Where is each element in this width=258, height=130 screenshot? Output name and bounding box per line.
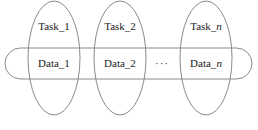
diagram-canvas: Task_1 Data_1 Task_2 Data_2 ··· Task_n D… <box>0 0 258 130</box>
data-label-n: Data_n <box>176 57 236 69</box>
ellipsis-icon: ··· <box>152 57 172 69</box>
task-label-2: Task_2 <box>90 20 150 32</box>
data-label-2: Data_2 <box>90 57 150 69</box>
task-label-n: Task_n <box>176 20 236 32</box>
data-label-1: Data_1 <box>24 57 84 69</box>
task-label-1: Task_1 <box>24 20 84 32</box>
